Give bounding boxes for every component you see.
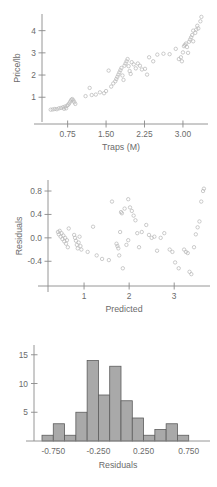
histogram-bar bbox=[121, 401, 132, 441]
data-point bbox=[91, 225, 94, 228]
x-tick-label: 1.50 bbox=[98, 129, 115, 139]
y-tick-label: 2 bbox=[31, 70, 36, 80]
data-point bbox=[171, 250, 174, 253]
data-point bbox=[185, 45, 188, 48]
data-point bbox=[191, 40, 194, 43]
data-point bbox=[88, 86, 91, 89]
data-point bbox=[156, 53, 159, 56]
data-point bbox=[199, 20, 202, 23]
data-point bbox=[107, 69, 110, 72]
x-tick-label: 0.750 bbox=[178, 446, 199, 456]
data-point bbox=[200, 200, 203, 203]
y-axis-label: Residuals bbox=[14, 216, 24, 255]
data-point bbox=[137, 246, 140, 249]
data-point bbox=[159, 236, 162, 239]
data-point bbox=[98, 91, 101, 94]
x-tick-label: 3.00 bbox=[175, 129, 192, 139]
data-point bbox=[180, 60, 183, 63]
histogram-bar bbox=[42, 435, 53, 441]
data-point bbox=[192, 246, 195, 249]
data-point bbox=[104, 89, 107, 92]
data-point bbox=[152, 60, 155, 63]
x-tick-label: -0.750 bbox=[41, 446, 65, 456]
data-point bbox=[127, 239, 130, 242]
x-tick-label: 0.250 bbox=[133, 446, 154, 456]
y-tick-label: 10 bbox=[19, 379, 29, 389]
data-point bbox=[79, 244, 82, 247]
data-point bbox=[78, 235, 81, 238]
data-point bbox=[188, 270, 191, 273]
x-tick-label: 1 bbox=[82, 291, 87, 301]
data-point bbox=[200, 15, 203, 18]
x-tick-label: 2.25 bbox=[136, 129, 153, 139]
y-tick-label: 3 bbox=[31, 48, 36, 58]
data-point bbox=[173, 261, 176, 264]
data-point bbox=[77, 241, 80, 244]
histogram-bar bbox=[132, 418, 143, 441]
data-point bbox=[132, 214, 135, 217]
x-tick-label: 0.75 bbox=[59, 129, 76, 139]
data-point bbox=[94, 93, 97, 96]
data-point bbox=[110, 200, 113, 203]
data-point bbox=[155, 249, 158, 252]
y-tick-label: 4 bbox=[31, 26, 36, 36]
data-point bbox=[118, 230, 121, 233]
histogram-bar bbox=[166, 424, 177, 441]
histogram-bar bbox=[65, 435, 76, 441]
data-point bbox=[107, 258, 110, 261]
data-point bbox=[127, 64, 130, 67]
data-point bbox=[140, 230, 143, 233]
data-point bbox=[118, 254, 121, 257]
data-point bbox=[194, 233, 197, 236]
data-point bbox=[80, 248, 83, 251]
y-tick-label: 0.0 bbox=[30, 233, 42, 243]
scatter-plot-canvas: 1234Price/lb0.751.502.253.00Traps (M) bbox=[0, 0, 217, 162]
y-tick-label: 0.8 bbox=[30, 186, 42, 196]
data-point bbox=[121, 74, 124, 77]
data-point bbox=[128, 206, 131, 209]
data-point bbox=[64, 242, 67, 245]
data-point bbox=[125, 243, 128, 246]
data-point bbox=[162, 52, 165, 55]
data-point bbox=[132, 63, 135, 66]
data-point bbox=[122, 78, 125, 81]
data-point bbox=[100, 257, 103, 260]
data-point bbox=[84, 94, 87, 97]
x-axis-label: Predicted bbox=[105, 304, 142, 314]
y-tick-label: 5 bbox=[23, 407, 28, 417]
histogram-canvas: 51015-0.750-0.2500.2500.750Residuals bbox=[0, 325, 217, 487]
data-point bbox=[130, 209, 133, 212]
data-point bbox=[134, 67, 137, 70]
y-tick-label: 15 bbox=[19, 350, 29, 360]
histogram-bar bbox=[98, 395, 109, 441]
data-point bbox=[145, 73, 148, 76]
histogram-bar bbox=[177, 435, 188, 441]
data-point bbox=[66, 246, 69, 249]
data-point bbox=[177, 267, 180, 270]
data-point bbox=[163, 231, 166, 234]
histogram-bar bbox=[76, 412, 87, 441]
scatter-plot-price-traps: 1234Price/lb0.751.502.253.00Traps (M) bbox=[0, 0, 217, 162]
data-point bbox=[186, 51, 189, 54]
data-point bbox=[75, 243, 78, 246]
histogram-bar bbox=[155, 430, 166, 442]
data-point bbox=[95, 254, 98, 257]
data-point bbox=[147, 56, 150, 59]
data-point bbox=[121, 267, 124, 270]
data-point bbox=[198, 220, 201, 223]
data-point bbox=[127, 198, 130, 201]
x-tick-label: 3 bbox=[172, 291, 177, 301]
residual-plot-canvas: -0.40.00.40.8Residuals123Predicted bbox=[0, 162, 217, 325]
data-point bbox=[168, 52, 171, 55]
x-tick-label: -0.250 bbox=[87, 446, 111, 456]
data-point bbox=[136, 231, 139, 234]
data-point bbox=[174, 47, 177, 50]
y-tick-label: 0.4 bbox=[30, 209, 42, 219]
data-point bbox=[90, 93, 93, 96]
histogram-bar bbox=[110, 366, 121, 441]
data-point bbox=[196, 226, 199, 229]
data-point bbox=[123, 207, 126, 210]
data-point bbox=[138, 64, 141, 67]
histogram-bar bbox=[87, 361, 98, 442]
data-point bbox=[145, 223, 148, 226]
